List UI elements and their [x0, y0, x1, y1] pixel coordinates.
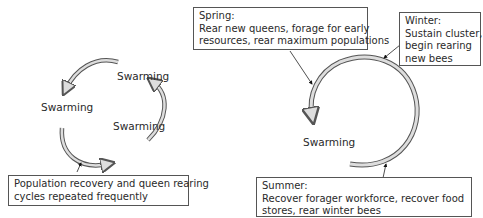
summer-pointer: [383, 164, 386, 178]
summer-title: Summer:: [262, 180, 466, 193]
left-note-pointer: [77, 163, 81, 172]
spring-line: resources, rear maximum populations: [199, 35, 362, 48]
winter-line: new bees: [405, 53, 475, 66]
winter-pointer: [384, 45, 400, 58]
summer-box: Summer: Recover forager workforce, recov…: [256, 177, 472, 217]
note-line: Population recovery and queen rearing: [14, 178, 183, 191]
spring-line: Rear new queens, forage for early: [199, 23, 362, 36]
winter-line: Sustain cluster,: [405, 28, 475, 41]
winter-title: Winter:: [405, 15, 475, 28]
left-note-box: Population recovery and queen rearing cy…: [8, 175, 189, 206]
winter-line: begin rearing: [405, 40, 475, 53]
summer-line: stores, rear winter bees: [262, 205, 466, 218]
swarm-label-right: Swarming: [303, 136, 355, 149]
swarm-label-left: Swarming: [41, 101, 93, 114]
swarm-label-top: Swarming: [117, 70, 169, 83]
winter-box: Winter: Sustain cluster, begin rearing n…: [399, 12, 481, 66]
summer-line: Recover forager workforce, recover food: [262, 193, 466, 206]
spring-box: Spring: Rear new queens, forage for earl…: [193, 7, 368, 50]
swarm-label-bottom: Swarming: [113, 120, 165, 133]
spring-pointer: [290, 51, 312, 84]
note-line: cycles repeated frequently: [14, 191, 183, 204]
spring-title: Spring:: [199, 10, 362, 23]
